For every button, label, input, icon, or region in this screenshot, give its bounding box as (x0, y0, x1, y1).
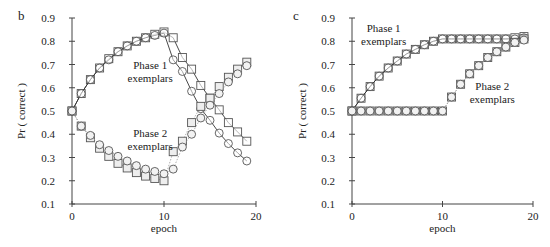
circle-marker (243, 157, 251, 165)
circle-marker (105, 56, 113, 64)
annotation-phase-1-line2: exemplars (128, 72, 173, 84)
circle-marker (178, 143, 186, 151)
circle-marker (169, 56, 177, 64)
circle-marker (77, 122, 85, 130)
annotation-phase-1-line1: Phase 1 (133, 59, 167, 71)
circle-marker (188, 87, 196, 95)
circle-marker (151, 31, 159, 39)
circle-marker (123, 157, 131, 165)
circle-marker (475, 62, 483, 70)
circle-marker (160, 170, 168, 178)
annotation-phase-2-line2: exemplars (128, 140, 173, 152)
circle-marker (520, 36, 528, 44)
square-marker (215, 106, 223, 114)
square-marker (243, 137, 251, 145)
circle-marker (420, 41, 428, 49)
annotation-phase-2-line1: Phase 2 (133, 127, 167, 139)
circle-marker (375, 107, 383, 115)
circle-marker (448, 93, 456, 101)
circle-marker (197, 114, 205, 122)
circle-marker (68, 107, 76, 115)
circle-marker (96, 141, 104, 149)
figure: b0.10.20.30.40.50.60.70.80.901020epochPr… (0, 0, 550, 247)
circle-marker (142, 165, 150, 173)
circle-marker (439, 35, 447, 43)
circle-marker (224, 140, 232, 148)
x-tick-label: 20 (251, 210, 263, 222)
circle-marker (105, 147, 113, 155)
circle-marker (132, 37, 140, 45)
circle-marker (420, 107, 428, 115)
y-tick-label: 0.4 (41, 128, 55, 140)
circle-marker (493, 48, 501, 56)
circle-marker (215, 129, 223, 137)
circle-marker (206, 101, 214, 109)
y-tick-label: 0.1 (41, 198, 55, 210)
circle-marker (411, 45, 419, 53)
y-tick-label: 0.4 (321, 128, 335, 140)
circle-marker (466, 70, 474, 78)
square-marker (188, 65, 196, 73)
y-tick-label: 0.3 (321, 152, 335, 164)
circle-marker (502, 35, 510, 43)
circle-marker (123, 42, 131, 50)
x-axis-title: epoch (151, 222, 178, 234)
annotation-phase-2-line1: Phase 2 (475, 80, 509, 92)
circle-marker (484, 35, 492, 43)
circle-marker (206, 116, 214, 124)
x-tick-label: 10 (437, 210, 449, 222)
square-marker (188, 119, 196, 127)
circle-marker (114, 48, 122, 56)
circle-marker (215, 90, 223, 98)
square-marker (197, 81, 205, 89)
circle-marker (457, 35, 465, 43)
circle-marker (411, 107, 419, 115)
square-marker (234, 128, 242, 136)
panel-label-b: b (18, 8, 25, 23)
square-marker (197, 102, 205, 110)
circle-marker (402, 107, 410, 115)
circle-marker (429, 37, 437, 45)
circle-marker (224, 78, 232, 86)
circle-marker (384, 107, 392, 115)
circle-marker (96, 64, 104, 72)
circle-marker (393, 107, 401, 115)
circle-marker (439, 107, 447, 115)
y-axis-title: Pr ( correct ) (15, 83, 28, 139)
annotation-phase-1-line1: Phase 1 (367, 22, 401, 34)
circle-marker (348, 107, 356, 115)
x-tick-label: 0 (69, 210, 75, 222)
y-tick-label: 0.3 (41, 152, 55, 164)
circle-marker (448, 35, 456, 43)
circle-marker (169, 165, 177, 173)
circle-marker (114, 152, 122, 160)
circle-marker (160, 29, 168, 37)
circle-marker (384, 64, 392, 72)
circle-marker (502, 43, 510, 51)
circle-marker (178, 67, 186, 75)
circle-marker (86, 131, 94, 139)
circle-marker (234, 70, 242, 78)
square-marker (224, 119, 232, 127)
annotation-phase-2-line2: exemplars (470, 93, 515, 105)
y-tick-label: 0.5 (41, 105, 55, 117)
circle-marker (151, 167, 159, 175)
panel-c-chart: c0.10.20.30.40.50.60.70.80.901020epochPr… (293, 8, 539, 234)
circle-marker (466, 35, 474, 43)
circle-marker (366, 107, 374, 115)
circle-marker (234, 149, 242, 157)
circle-marker (188, 130, 196, 138)
y-tick-label: 0.7 (41, 59, 55, 71)
circle-marker (429, 107, 437, 115)
y-tick-label: 0.5 (321, 105, 335, 117)
circle-marker (366, 83, 374, 91)
circle-marker (493, 35, 501, 43)
y-tick-label: 0.6 (321, 82, 335, 94)
y-tick-label: 0.6 (41, 82, 55, 94)
y-axis-title: Pr ( correct ) (296, 83, 309, 139)
annotation-phase-1-line2: exemplars (361, 35, 406, 47)
circle-marker (484, 54, 492, 62)
y-tick-label: 0.1 (321, 198, 335, 210)
y-tick-label: 0.2 (41, 175, 55, 187)
circle-marker (475, 35, 483, 43)
